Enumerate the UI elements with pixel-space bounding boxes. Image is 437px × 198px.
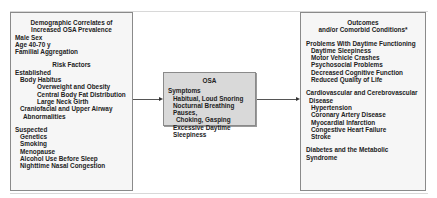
daytime-item: Psychosocial Problems	[306, 61, 420, 68]
suspected-item: Menopause	[15, 148, 128, 155]
suspected-item: Nighttime Nasal Congestion	[15, 162, 128, 169]
risk-factors-box: Demographic Correlates of Increased OSA …	[10, 12, 133, 191]
symptom-item: Nocturnal Breathing Pauses,	[168, 102, 251, 117]
risk-factors-title: Risk Factors	[15, 61, 128, 68]
suspected-item: Smoking	[15, 140, 128, 147]
daytime-item: Decreased Cognitive Function	[306, 69, 420, 76]
symptom-item: Habitual, Loud Snoring	[168, 95, 251, 102]
body-habitus-label: Body Habitus	[15, 76, 128, 83]
body-habitus-item: Large Neck Girth	[15, 98, 128, 105]
osa-title: OSA	[168, 77, 251, 84]
body-habitus-item: Central Body Fat Distribution	[15, 91, 128, 98]
suspected-label: Suspected	[15, 126, 128, 133]
daytime-item: Daytime Sleepiness	[306, 47, 420, 54]
outcomes-box: Outcomes and/or Comorbid Conditions* Pro…	[300, 12, 426, 191]
demographics-title-1: Demographic Correlates of	[15, 19, 128, 26]
connector-left	[133, 99, 159, 100]
cardio-item: Congestive Heart Failure	[306, 126, 420, 133]
cardio-item: Hypertension	[306, 104, 420, 111]
demographic-item: Age 40-70 y	[15, 41, 128, 48]
diabetes-label: Diabetes and the Metabolic Syndrome	[306, 146, 420, 161]
craniofacial-item: Craniofacial and Upper Airway	[15, 105, 128, 112]
connector-right	[257, 99, 296, 100]
body-habitus-item: Overweight and Obesity	[15, 83, 128, 90]
daytime-item: Motor Vehicle Crashes	[306, 54, 420, 61]
outcomes-title-1: Outcomes	[306, 19, 420, 26]
cardio-item: Stroke	[306, 133, 420, 140]
craniofacial-item-cont: Abnormalities	[15, 113, 128, 120]
daytime-item: Reduced Quality of Life	[306, 76, 420, 83]
symptom-item: Excessive Daytime Sleepiness	[168, 124, 251, 139]
suspected-item: Alcohol Use Before Sleep	[15, 155, 128, 162]
symptoms-label: Symptoms	[168, 87, 251, 94]
demographic-item: Familial Aggregation	[15, 48, 128, 55]
cardio-label-2: Disease	[306, 97, 420, 104]
outcomes-title-2: and/or Comorbid Conditions*	[306, 26, 420, 33]
demographics-title-2: Increased OSA Prevalence	[15, 26, 128, 33]
suspected-item: Genetics	[15, 133, 128, 140]
osa-box: OSA Symptoms Habitual, Loud Snoring Noct…	[163, 72, 256, 126]
cardio-label-1: Cardiovascular and Cerebrovascular	[306, 89, 420, 96]
cardio-item: Myocardial Infarction	[306, 119, 420, 126]
cardio-item: Coronary Artery Disease	[306, 111, 420, 118]
established-label: Established	[15, 69, 128, 76]
daytime-label: Problems With Daytime Functioning	[306, 40, 420, 47]
demographic-item: Male Sex	[15, 34, 128, 41]
symptom-item: Choking, Gasping	[168, 116, 251, 123]
